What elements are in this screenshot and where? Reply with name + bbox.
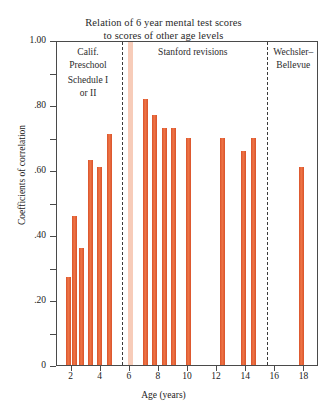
bar [107,134,112,365]
y-tick-label: 1.00 [6,35,46,45]
bar [88,160,93,365]
bar [186,138,191,366]
x-tick-label: 10 [175,371,199,381]
section-label-calif-line2: Preschool [69,60,106,70]
chart-title-line-1: Relation of 6 year mental test scores [0,16,327,29]
x-tick-label: 16 [262,371,286,381]
bar [299,167,304,365]
x-tick-label: 12 [204,371,228,381]
y-tick-label: 0 [6,360,46,370]
x-tick-label: 4 [88,371,112,381]
figure: Relation of 6 year mental test scores to… [0,0,327,416]
x-tick-label: 8 [146,371,170,381]
x-tick-label: 6 [117,371,141,381]
section-label-calif-line4: or II [80,88,97,98]
x-tick-label: 18 [291,371,315,381]
bar [66,277,71,365]
section-divider [267,42,268,365]
bar [79,248,84,365]
section-label-calif-line3: Schedule I [68,75,108,85]
y-tick-label: .20 [6,295,46,305]
bar [143,99,148,366]
section-label-wechsler: Wechsler– Bellevue [233,46,327,71]
bar [152,115,157,365]
y-tick [50,366,56,367]
bar [171,128,176,365]
x-tick-label: 2 [59,371,83,381]
section-label-calif-preschool: Calif. Preschool [28,46,148,71]
section-label-calif-schedule: Schedule I or II [28,74,148,99]
section-label-wechsler-line1: Wechsler– [273,47,313,57]
bar [97,167,102,365]
chart-title: Relation of 6 year mental test scores to… [0,16,327,42]
y-axis-title: Coefficients of correlation [17,95,27,255]
bar [251,138,256,366]
bar [241,151,246,366]
x-axis-title: Age (years) [0,390,327,400]
bar [162,128,167,365]
bar [220,138,225,366]
section-label-calif-line1: Calif. [77,47,98,57]
bar [72,216,77,366]
section-label-wechsler-line2: Bellevue [276,60,310,70]
x-tick-label: 14 [233,371,257,381]
